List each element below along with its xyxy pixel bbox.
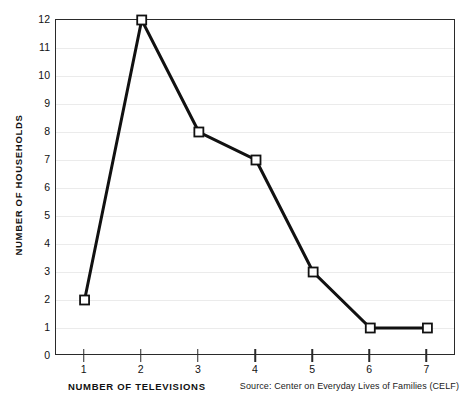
x-tick-label: 2 — [126, 363, 156, 375]
x-tick-label: 7 — [411, 363, 441, 375]
line-chart-figure: NUMBER OF HOUSEHOLDS 0123456789101112 12… — [0, 0, 467, 412]
data-series-line — [56, 20, 456, 356]
x-tick-label: 6 — [354, 363, 384, 375]
x-tick-mark — [83, 349, 85, 362]
x-axis-ticks — [55, 349, 455, 362]
y-tick-label: 7 — [26, 154, 50, 165]
data-point-marker — [137, 16, 146, 25]
data-point-marker — [423, 324, 432, 333]
x-tick-label: 1 — [69, 363, 99, 375]
y-tick-label: 4 — [26, 238, 50, 249]
x-tick-mark — [369, 349, 371, 362]
data-point-marker — [252, 156, 261, 165]
y-tick-label: 6 — [26, 182, 50, 193]
y-tick-label: 5 — [26, 210, 50, 221]
x-tick-mark — [254, 349, 256, 362]
plot-area — [55, 19, 455, 355]
data-point-marker — [309, 268, 318, 277]
y-tick-label: 12 — [26, 14, 50, 25]
y-tick-label: 10 — [26, 70, 50, 81]
source-note: Source: Center on Everyday Lives of Fami… — [240, 381, 459, 391]
data-point-marker — [80, 296, 89, 305]
x-axis-title: NUMBER OF TELEVISIONS — [68, 381, 206, 392]
x-tick-mark — [197, 349, 199, 362]
x-tick-mark — [140, 349, 142, 362]
y-tick-label: 11 — [26, 42, 50, 53]
y-tick-label: 2 — [26, 294, 50, 305]
y-tick-label: 1 — [26, 322, 50, 333]
y-tick-label: 8 — [26, 126, 50, 137]
x-tick-mark — [311, 349, 313, 362]
x-tick-label: 5 — [297, 363, 327, 375]
x-tick-label: 4 — [240, 363, 270, 375]
y-tick-label: 3 — [26, 266, 50, 277]
data-point-marker — [366, 324, 375, 333]
x-axis-tick-labels: 1234567 — [55, 363, 455, 377]
y-axis-tick-labels: 0123456789101112 — [26, 19, 50, 355]
x-tick-label: 3 — [183, 363, 213, 375]
y-tick-label: 9 — [26, 98, 50, 109]
y-axis-title: NUMBER OF HOUSEHOLDS — [9, 15, 27, 355]
data-point-marker — [194, 128, 203, 137]
y-tick-label: 0 — [26, 350, 50, 361]
x-tick-mark — [426, 349, 428, 362]
series-polyline — [85, 20, 428, 328]
